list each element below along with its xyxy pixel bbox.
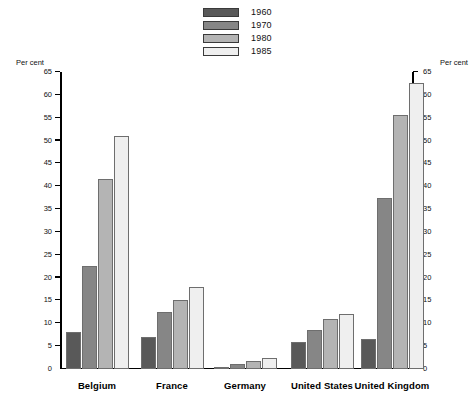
right-axis-title: Per cent: [440, 58, 468, 67]
left-axis-title: Per cent: [16, 58, 44, 67]
axis-tick-label: 10: [423, 319, 431, 327]
legend-item[interactable]: 1960: [203, 6, 313, 18]
category-label: Belgium: [78, 380, 116, 391]
bar[interactable]: [214, 367, 229, 369]
axis-tick-mark: [55, 299, 60, 300]
bar[interactable]: [82, 266, 97, 369]
bar-group: [66, 72, 129, 369]
axis-tick-label: 55: [423, 114, 431, 122]
axis-tick-label: 35: [423, 205, 431, 213]
legend-swatch-icon: [203, 34, 239, 43]
legend-swatch-icon: [203, 21, 239, 30]
axis-tick-mark: [55, 208, 60, 209]
bar[interactable]: [246, 361, 261, 369]
bar[interactable]: [230, 364, 245, 369]
axis-tick-label: 50: [44, 137, 52, 145]
axis-tick-mark: [55, 231, 60, 232]
axis-tick-mark: [55, 185, 60, 186]
left-axis-line: [60, 72, 61, 369]
axis-tick-label: 5: [48, 342, 52, 350]
legend-item[interactable]: 1980: [203, 32, 313, 44]
bar[interactable]: [361, 339, 376, 369]
axis-tick-label: 30: [423, 228, 431, 236]
axis-tick-label: 25: [423, 251, 431, 259]
axis-tick-label: 40: [423, 182, 431, 190]
axis-tick-label: 45: [44, 159, 52, 167]
axis-tick-label: 20: [423, 274, 431, 282]
bar[interactable]: [262, 358, 277, 369]
axis-tick-label: 10: [44, 319, 52, 327]
axis-tick-label: 65: [44, 68, 52, 76]
bar[interactable]: [323, 319, 338, 369]
axis-tick-label: 40: [44, 182, 52, 190]
axis-tick-label: 35: [44, 205, 52, 213]
axis-tick-mark: [55, 117, 60, 118]
legend-item-label: 1970: [251, 21, 272, 30]
bar[interactable]: [66, 332, 81, 369]
axis-tick-mark: [55, 345, 60, 346]
bar-group: [214, 72, 277, 369]
legend-item[interactable]: 1970: [203, 19, 313, 31]
bar[interactable]: [409, 83, 424, 369]
axis-tick-mark: [55, 276, 60, 277]
axis-tick-label: 55: [44, 114, 52, 122]
bar[interactable]: [393, 115, 408, 369]
bar-group: [361, 72, 424, 369]
category-label: Germany: [224, 380, 266, 391]
axis-tick-label: 20: [44, 274, 52, 282]
axis-tick-label: 0: [423, 365, 427, 373]
bar[interactable]: [307, 330, 322, 369]
axis-tick-label: 25: [44, 251, 52, 259]
bar[interactable]: [189, 287, 204, 369]
axis-tick-label: 60: [423, 91, 431, 99]
bar[interactable]: [98, 179, 113, 369]
axis-tick-mark: [55, 94, 60, 95]
axis-tick-label: 15: [423, 296, 431, 304]
legend-swatch-icon: [203, 8, 239, 17]
legend-item-label: 1980: [251, 34, 272, 43]
bar[interactable]: [157, 312, 172, 369]
legend-item-label: 1985: [251, 47, 272, 56]
axis-tick-mark: [55, 254, 60, 255]
axis-tick-label: 5: [423, 342, 427, 350]
axis-tick-label: 45: [423, 159, 431, 167]
bar[interactable]: [339, 314, 354, 369]
category-label: United States: [291, 380, 353, 391]
axis-tick-label: 65: [423, 68, 431, 76]
axis-tick-mark: [55, 71, 60, 72]
bar[interactable]: [377, 198, 392, 369]
axis-tick-label: 50: [423, 137, 431, 145]
legend-swatch-icon: [203, 47, 239, 56]
axis-tick-label: 0: [48, 365, 52, 373]
category-label: United Kingdom: [355, 380, 430, 391]
axis-tick-mark: [55, 162, 60, 163]
bar[interactable]: [114, 136, 129, 369]
bar[interactable]: [173, 300, 188, 369]
plot-area: 0055101015152020252530303535404045455050…: [61, 72, 413, 369]
axis-tick-label: 15: [44, 296, 52, 304]
category-label: France: [156, 380, 188, 391]
axis-tick-label: 60: [44, 91, 52, 99]
axis-tick-mark: [55, 139, 60, 140]
legend-item-label: 1960: [251, 8, 272, 17]
bar-chart: 1960197019801985 Per cent Per cent 00551…: [0, 0, 476, 413]
bar[interactable]: [291, 342, 306, 369]
axis-tick-label: 30: [44, 228, 52, 236]
bar[interactable]: [141, 337, 156, 369]
bar-group: [141, 72, 204, 369]
bar-group: [291, 72, 354, 369]
axis-tick-mark: [55, 322, 60, 323]
legend-item[interactable]: 1985: [203, 45, 313, 57]
chart-legend: 1960197019801985: [203, 6, 313, 58]
